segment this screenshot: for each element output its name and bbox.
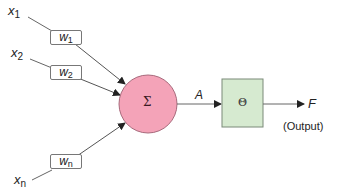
input-line-xn (32, 170, 52, 180)
weighted-line-w2 (78, 78, 120, 95)
weight-box-w2: w2 (50, 65, 82, 80)
input-label-xn: xn (14, 172, 26, 189)
summation-symbol: Σ (143, 95, 151, 109)
input-line-x2 (30, 59, 52, 68)
weighted-line-wn (77, 123, 125, 156)
threshold-symbol: Θ (238, 96, 247, 109)
weighted-line-w1 (75, 44, 125, 84)
weight-box-w1: w1 (50, 30, 82, 45)
input-label-x1: x1 (8, 3, 20, 20)
input-line-x1 (28, 17, 52, 31)
perceptron-diagram: x1 x2 xn w1 w2 wn Σ Θ A F (Output) (0, 0, 338, 196)
weight-box-wn: wn (50, 154, 82, 169)
input-label-x2: x2 (11, 45, 23, 62)
activation-label: A (195, 88, 203, 102)
output-label: F (308, 96, 316, 111)
output-caption: (Output) (283, 120, 323, 132)
